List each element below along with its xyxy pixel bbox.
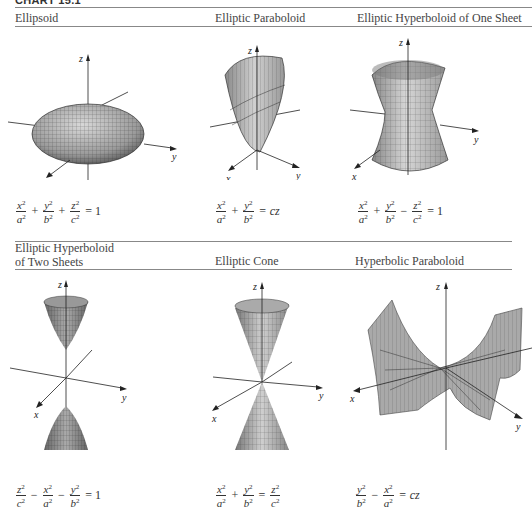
z-axis-label: z xyxy=(78,53,83,64)
svg-text:x: x xyxy=(225,173,231,180)
x-axis-label: x xyxy=(41,179,47,180)
svg-text:z: z xyxy=(57,279,62,290)
svg-text:y: y xyxy=(318,390,324,401)
svg-text:y: y xyxy=(515,421,521,432)
equation-elliptic-cone: x2a2 + y2b2 = z2c2 xyxy=(216,482,280,509)
hyperboloid-two-sheets-figure: z y x xyxy=(0,270,180,450)
equation-elliptic-paraboloid: x2a2 + y2b2 = cz xyxy=(216,198,282,225)
top-rule xyxy=(15,7,532,8)
hyperboloid-one-sheet-figure: z y x xyxy=(350,30,532,180)
panel-title-hyperbolic-paraboloid: Hyperbolic Paraboloid xyxy=(355,254,464,268)
hyperbolic-paraboloid-figure: z x y xyxy=(340,270,532,450)
svg-text:z: z xyxy=(247,45,252,56)
svg-text:x: x xyxy=(211,413,217,424)
svg-text:x: x xyxy=(349,393,355,404)
svg-text:y: y xyxy=(295,170,301,180)
equation-hyperboloid-one-sheet: x2a2 + y2b2 − z2c2 = 1 xyxy=(358,198,445,225)
y-axis-label: y xyxy=(171,151,177,162)
panel-title-ellipsoid: Ellipsoid xyxy=(15,11,58,25)
chart-header: CHART 15.1 xyxy=(15,0,81,6)
panel-title-elliptic-cone: Elliptic Cone xyxy=(215,254,279,268)
equation-ellipsoid: x2a2 + y2b2 + z2c2 = 1 xyxy=(16,198,103,225)
panel-title-hyperboloid-one-sheet: Elliptic Hyperboloid of One Sheet xyxy=(357,11,522,25)
svg-text:z: z xyxy=(398,37,403,48)
elliptic-paraboloid-figure: z y x xyxy=(200,30,340,180)
ellipsoid-figure: z y x xyxy=(0,30,190,180)
svg-text:x: x xyxy=(351,171,357,180)
row1-title-rule xyxy=(15,26,532,27)
equation-hyperbolic-paraboloid: y2b2 − x2a2 = cz xyxy=(356,482,422,509)
equation-hyperboloid-two-sheets: z2c2 − x2a2 − y2b2 = 1 xyxy=(16,482,103,509)
svg-text:y: y xyxy=(121,392,127,403)
panel-title-hyperboloid-two-sheets: Elliptic Hyperboloid of Two Sheets xyxy=(15,241,114,269)
svg-text:z: z xyxy=(252,281,257,292)
elliptic-cone-figure: z y x xyxy=(200,270,340,450)
panel-title-elliptic-paraboloid: Elliptic Paraboloid xyxy=(215,11,305,25)
svg-text:x: x xyxy=(33,409,39,420)
svg-text:y: y xyxy=(473,134,479,145)
svg-text:z: z xyxy=(435,281,440,292)
